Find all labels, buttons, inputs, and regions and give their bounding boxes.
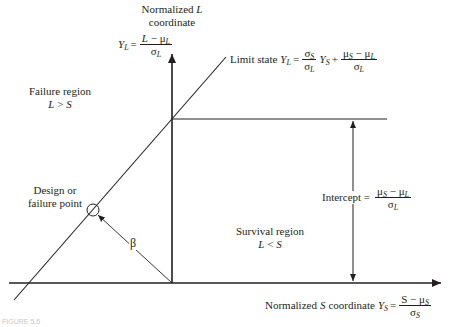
failure-region-condition: L > S xyxy=(20,98,100,111)
x-formula-lhs: YS xyxy=(378,299,388,312)
limit-state-label: Limit state YL = σS σL YS + μS − μL σL xyxy=(230,47,378,72)
y-formula-lhs: YL xyxy=(118,38,129,51)
y-axis-title-var: L xyxy=(196,3,202,15)
y-formula-eq: = xyxy=(131,38,137,51)
failure-region-title: Failure region xyxy=(20,85,100,98)
y-axis-title: Normalized L coordinate xyxy=(120,3,224,29)
intercept-label: Intercept = μS − μL σL xyxy=(322,185,412,210)
y-formula-fraction: L − μL σL xyxy=(140,32,172,57)
x-formula-eq: = xyxy=(390,299,396,312)
y-axis-title-line2: coordinate xyxy=(120,16,224,29)
x-formula-fraction: S − μS σS xyxy=(399,293,431,318)
limit-state-slope-fraction: σS σL xyxy=(302,47,316,72)
beta-label: β xyxy=(129,237,137,250)
diagram-graphics xyxy=(0,0,453,327)
intercept-fraction: μS − μL σL xyxy=(375,185,411,210)
x-axis-title: Normalized S coordinate YS = S − μS σS xyxy=(265,293,432,318)
survival-region-condition: L < S xyxy=(222,238,318,251)
x-axis-title-var: S xyxy=(320,299,326,312)
limit-state-intercept-fraction: μS − μL σL xyxy=(341,47,377,72)
y-axis-formula: YL = L − μL σL xyxy=(118,32,173,57)
x-axis-title-text: Normalized xyxy=(265,299,317,312)
failure-region-label: Failure region L > S xyxy=(20,85,100,111)
intercept-text: Intercept = xyxy=(322,191,372,204)
design-point-label: Design or failure point xyxy=(18,184,92,210)
limit-state-diagram: Normalized L coordinate YL = L − μL σL L… xyxy=(0,0,453,327)
survival-region-label: Survival region L < S xyxy=(222,225,318,251)
y-axis-title-text: Normalized xyxy=(142,3,197,15)
survival-region-title: Survival region xyxy=(222,225,318,238)
design-point-line1: Design or xyxy=(18,184,92,197)
limit-state-text: Limit state xyxy=(230,53,277,66)
figure-caption-fragment: FIGURE 5.5 xyxy=(2,318,40,325)
design-point-line2: failure point xyxy=(18,197,92,210)
